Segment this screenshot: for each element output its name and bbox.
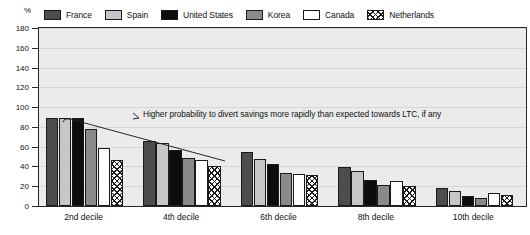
bar-france[interactable] <box>338 167 350 206</box>
legend-item-united-states[interactable]: United States <box>161 10 233 20</box>
x-axis-tick-label: 8th decile <box>358 212 394 222</box>
y-axis-tick <box>32 127 38 128</box>
legend-item-netherlands[interactable]: Netherlands <box>367 10 434 20</box>
legend-label: United States <box>183 10 233 20</box>
bar-spain[interactable] <box>156 143 168 206</box>
bar-canada[interactable] <box>98 148 110 206</box>
legend-swatch-white-solid <box>303 10 320 20</box>
y-axis-tick <box>32 28 38 29</box>
legend-swatch-medium-gray-solid <box>246 10 263 20</box>
bar-korea[interactable] <box>85 129 97 206</box>
legend-item-spain[interactable]: Spain <box>105 10 148 20</box>
bar-united-states[interactable] <box>364 180 376 206</box>
bar-france[interactable] <box>46 118 58 206</box>
bar-canada[interactable] <box>195 160 207 206</box>
bar-netherlands[interactable] <box>111 160 123 206</box>
legend-swatch-light-gray-solid <box>105 10 122 20</box>
y-axis-tick-label: 20 <box>20 182 29 191</box>
bar-france[interactable] <box>143 141 155 206</box>
bar-netherlands[interactable] <box>501 195 513 206</box>
y-axis-tick <box>32 147 38 148</box>
bar-netherlands[interactable] <box>208 166 220 206</box>
y-axis-tick-label: 180 <box>16 24 29 33</box>
bar-korea[interactable] <box>377 185 389 206</box>
bar-spain[interactable] <box>59 118 71 206</box>
chart-root: FranceSpainUnited StatesKoreaCanadaNethe… <box>0 0 530 235</box>
legend-label: France <box>66 10 92 20</box>
chart-legend: FranceSpainUnited StatesKoreaCanadaNethe… <box>44 7 528 22</box>
bar-canada[interactable] <box>488 193 500 206</box>
bar-spain[interactable] <box>254 159 266 206</box>
y-axis-tick-label: 160 <box>16 43 29 52</box>
bar-cluster <box>436 28 513 206</box>
legend-swatch-dark-gray-solid <box>44 10 61 20</box>
y-axis-tick <box>32 87 38 88</box>
y-axis-tick <box>32 206 38 207</box>
bar-netherlands[interactable] <box>306 175 318 206</box>
bar-korea[interactable] <box>280 173 292 206</box>
x-axis-tick-label: 10th decile <box>453 212 494 222</box>
x-axis-tick-label: 6th decile <box>260 212 296 222</box>
y-axis-tick-label: 60 <box>20 142 29 151</box>
y-axis-unit-label: % <box>24 6 31 15</box>
x-axis-tick-label: 4th decile <box>163 212 199 222</box>
bar-netherlands[interactable] <box>403 186 415 206</box>
bar-korea[interactable] <box>182 158 194 206</box>
y-axis-tick-label: 80 <box>20 122 29 131</box>
bar-united-states[interactable] <box>72 118 84 206</box>
bar-korea[interactable] <box>475 198 487 206</box>
bar-france[interactable] <box>436 188 448 206</box>
legend-label: Korea <box>268 10 290 20</box>
legend-swatch-cross-hatch <box>367 10 384 20</box>
legend-item-france[interactable]: France <box>44 10 92 20</box>
bar-united-states[interactable] <box>267 164 279 206</box>
legend-item-korea[interactable]: Korea <box>246 10 290 20</box>
y-axis-tick <box>32 68 38 69</box>
legend-label: Canada <box>325 10 354 20</box>
bar-spain[interactable] <box>351 171 363 206</box>
bar-united-states[interactable] <box>169 150 181 206</box>
y-axis-tick-label: 120 <box>16 83 29 92</box>
legend-label: Netherlands <box>389 10 434 20</box>
legend-label: Spain <box>127 10 148 20</box>
x-axis-tick-label: 2nd decile <box>64 212 103 222</box>
annotation-text: Higher probability to divert savings mor… <box>143 109 441 119</box>
y-axis-tick <box>32 107 38 108</box>
legend-swatch-black-solid <box>161 10 178 20</box>
y-axis-tick-label: 40 <box>20 162 29 171</box>
y-axis-tick-label: 140 <box>16 63 29 72</box>
y-axis-tick <box>32 166 38 167</box>
bar-canada[interactable] <box>293 174 305 206</box>
y-axis-tick-label: 0 <box>25 202 29 211</box>
bar-spain[interactable] <box>449 191 461 206</box>
bar-cluster <box>46 28 123 206</box>
y-axis-tick <box>32 186 38 187</box>
y-axis-tick <box>32 48 38 49</box>
y-axis-tick-label: 100 <box>16 103 29 112</box>
bar-france[interactable] <box>241 152 253 206</box>
bar-canada[interactable] <box>390 181 402 206</box>
legend-item-canada[interactable]: Canada <box>303 10 354 20</box>
bar-united-states[interactable] <box>462 196 474 206</box>
